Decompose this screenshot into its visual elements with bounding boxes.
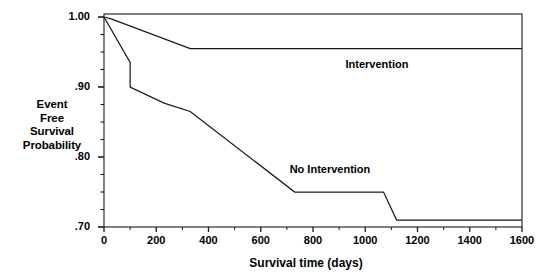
x-tick-label: 400: [187, 234, 231, 246]
x-tick-label: 800: [291, 234, 335, 246]
x-tick-label: 600: [239, 234, 283, 246]
y-tick-label: 1.00: [56, 10, 90, 22]
x-axis-ticks: [104, 227, 522, 232]
x-tick-label: 0: [82, 234, 126, 246]
x-tick-label: 1000: [343, 234, 387, 246]
y-tick-label: .80: [56, 150, 90, 162]
y-tick-label: .70: [56, 220, 90, 232]
series-line-intervention: [104, 17, 522, 49]
series-line-no-intervention: [104, 17, 522, 220]
series-label-no-intervention: No Intervention: [290, 163, 371, 175]
x-tick-label: 1600: [500, 234, 542, 246]
x-tick-label: 200: [134, 234, 178, 246]
x-tick-label: 1200: [396, 234, 440, 246]
y-axis-ticks: [98, 17, 104, 227]
plot-border: [104, 14, 522, 227]
series-lines: [104, 17, 522, 220]
series-label-intervention: Intervention: [346, 58, 409, 70]
y-tick-label: .90: [56, 80, 90, 92]
plot-frame: [104, 14, 522, 227]
x-tick-label: 1400: [448, 234, 492, 246]
